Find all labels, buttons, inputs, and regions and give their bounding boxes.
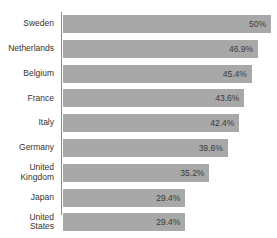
category-label: Sweden	[0, 15, 54, 33]
bar: 45.4%	[63, 65, 252, 83]
bar-row: Netherlands46.9%	[0, 40, 277, 58]
bar-row: Sweden50%	[0, 15, 277, 33]
bar-value-label: 29.4%	[156, 189, 180, 207]
category-label: Netherlands	[0, 40, 54, 58]
chart-title	[0, 0, 277, 6]
bar: 39.6%	[63, 139, 228, 157]
bar: 46.9%	[63, 40, 258, 58]
category-label: United Kingdom	[0, 164, 54, 182]
bar-row: United Kingdom35.2%	[0, 164, 277, 182]
bar: 29.4%	[63, 189, 185, 207]
bar: 29.4%	[63, 213, 185, 231]
bar-value-label: 35.2%	[180, 164, 204, 182]
category-label: France	[0, 89, 54, 107]
bar: 35.2%	[63, 164, 209, 182]
bar-row: United States29.4%	[0, 213, 277, 231]
category-label: Germany	[0, 139, 54, 157]
bar: 43.6%	[63, 89, 244, 107]
bar-chart: Sweden50%Netherlands46.9%Belgium45.4%Fra…	[0, 0, 277, 238]
category-label: Belgium	[0, 65, 54, 83]
bar-value-label: 50%	[249, 15, 266, 33]
bar: 50%	[63, 15, 271, 33]
chart-plot-area: Sweden50%Netherlands46.9%Belgium45.4%Fra…	[0, 12, 277, 226]
bar-value-label: 42.4%	[210, 114, 234, 132]
bar-row: Germany39.6%	[0, 139, 277, 157]
category-label: United States	[0, 213, 54, 231]
bar-value-label: 29.4%	[156, 213, 180, 231]
bar-row: Japan29.4%	[0, 189, 277, 207]
bar-row: Italy42.4%	[0, 114, 277, 132]
bar-value-label: 39.6%	[199, 139, 223, 157]
bar-value-label: 45.4%	[223, 65, 247, 83]
category-label: Japan	[0, 189, 54, 207]
bar-row: France43.6%	[0, 89, 277, 107]
bar-value-label: 46.9%	[229, 40, 253, 58]
bar: 42.4%	[63, 114, 239, 132]
category-label: Italy	[0, 114, 54, 132]
bar-row: Belgium45.4%	[0, 65, 277, 83]
bar-value-label: 43.6%	[215, 89, 239, 107]
